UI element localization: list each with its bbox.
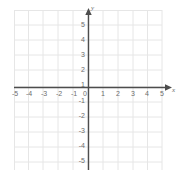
grid-and-axes [0, 0, 179, 176]
x-tick-label-2: 2 [112, 90, 124, 98]
x-tick-label-neg4: -4 [23, 90, 35, 98]
y-tick-label-neg5: -5 [73, 157, 85, 165]
y-tick-label-2: 2 [73, 66, 85, 74]
y-axis-label: y [91, 4, 94, 12]
x-tick-label-4: 4 [141, 90, 153, 98]
y-axis-line [85, 8, 91, 170]
y-tick-label-5: 5 [73, 21, 85, 29]
x-tick-label-1: 1 [97, 90, 109, 98]
x-tick-label-neg5: -5 [9, 90, 21, 98]
y-tick-label-neg2: -2 [73, 112, 85, 120]
x-tick-label-5: 5 [156, 90, 168, 98]
x-tick-label-neg2: -2 [53, 90, 65, 98]
coordinate-plane: -5 -4 -3 -2 -1 0 1 2 3 4 5 5 4 3 2 1 -1 … [0, 0, 179, 176]
y-tick-label-4: 4 [73, 36, 85, 44]
x-axis-label: x [172, 86, 175, 94]
x-tick-label-3: 3 [127, 90, 139, 98]
y-tick-label-neg4: -4 [73, 142, 85, 150]
y-tick-label-neg3: -3 [73, 127, 85, 135]
y-tick-label-3: 3 [73, 51, 85, 59]
y-tick-label-neg1: -1 [73, 97, 85, 105]
x-tick-label-neg3: -3 [38, 90, 50, 98]
y-tick-label-1: 1 [73, 81, 85, 89]
